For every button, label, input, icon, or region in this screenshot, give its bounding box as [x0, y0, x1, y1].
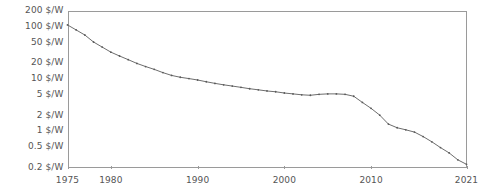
- data-point: [205, 81, 207, 83]
- price-line: [68, 25, 467, 164]
- data-point: [257, 89, 259, 91]
- data-point: [379, 114, 381, 116]
- data-point: [93, 41, 95, 43]
- data-point: [119, 55, 121, 57]
- data-point: [335, 93, 337, 95]
- data-point: [240, 86, 242, 88]
- data-point: [440, 147, 442, 149]
- data-point: [188, 78, 190, 80]
- data-point: [249, 88, 251, 90]
- data-point: [67, 24, 69, 26]
- data-point: [431, 141, 433, 143]
- data-point: [396, 127, 398, 129]
- data-point: [388, 123, 390, 125]
- data-point: [422, 136, 424, 138]
- data-point: [145, 66, 147, 68]
- data-point: [101, 46, 103, 48]
- data-point: [231, 85, 233, 87]
- data-point: [327, 93, 329, 95]
- data-point: [362, 102, 364, 104]
- data-point: [318, 93, 320, 95]
- data-point: [405, 129, 407, 131]
- data-point: [266, 90, 268, 92]
- data-point: [110, 51, 112, 53]
- data-point: [127, 59, 129, 61]
- data-point: [75, 29, 77, 31]
- data-point: [370, 107, 372, 109]
- data-point: [197, 79, 199, 81]
- data-point: [292, 93, 294, 95]
- data-point: [466, 163, 468, 165]
- data-point: [414, 131, 416, 133]
- data-point: [344, 93, 346, 95]
- data-point: [353, 95, 355, 97]
- data-point: [171, 75, 173, 77]
- data-point: [179, 76, 181, 78]
- data-point: [275, 91, 277, 93]
- data-point: [448, 152, 450, 154]
- data-point: [309, 94, 311, 96]
- data-point: [162, 72, 164, 74]
- data-point: [283, 92, 285, 94]
- data-point: [457, 159, 459, 161]
- data-point: [153, 68, 155, 70]
- data-point: [301, 94, 303, 96]
- price-markers: [67, 24, 468, 165]
- data-point: [84, 34, 86, 36]
- data-point: [136, 63, 138, 65]
- data-point: [214, 82, 216, 84]
- data-point: [223, 84, 225, 86]
